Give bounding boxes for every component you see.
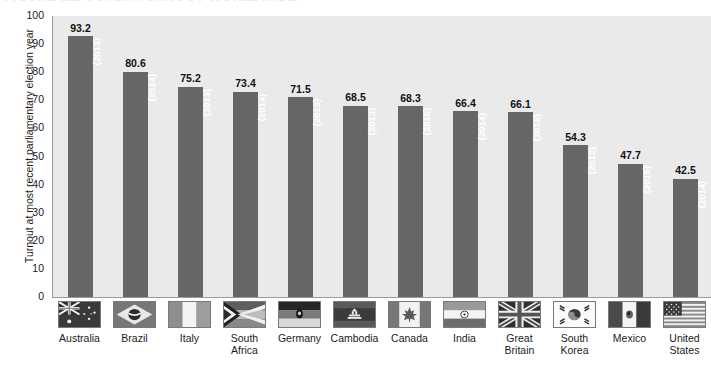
flag-mexico-icon [608, 301, 651, 328]
bar-value-label: 80.6 [108, 58, 163, 69]
flag-cambodia-icon [333, 301, 376, 328]
flag-cell [272, 300, 327, 330]
bar-year-label: (2014) [468, 121, 493, 132]
country-label-cambodia: Cambodia [327, 332, 382, 344]
bar-column[interactable]: (2015)68.3 [383, 16, 438, 298]
bar-value-label: 71.5 [273, 84, 328, 95]
y-tick-0: 0 [18, 291, 44, 302]
flag-cell [217, 300, 272, 330]
flag-south-africa-icon [223, 301, 266, 328]
y-tick-80: 80 [18, 66, 44, 77]
flag-cell [52, 300, 107, 330]
bar-year-label: (2014) [248, 102, 273, 113]
bar-year-label: (2013) [358, 116, 383, 127]
country-label-canada: Canada [382, 332, 437, 344]
bar-value-label: 66.1 [493, 99, 548, 110]
y-tick-10: 10 [18, 263, 44, 274]
flag-united-states-icon [663, 301, 706, 328]
bar-value-label: 54.3 [548, 132, 603, 143]
bar-column[interactable]: (2013)93.2 [53, 16, 108, 298]
country-label-india: India [437, 332, 492, 344]
figure-title-clipped: FIGURE 1.2 VOTER TURNOUT WORLDWIDE U.S. … [0, 0, 711, 7]
flag-cell [327, 300, 382, 330]
y-axis-tick-labels: 0102030405060708090100 [18, 0, 44, 367]
bar-year-label: (2015) [633, 174, 658, 185]
bar-column[interactable]: (2014)80.6 [108, 16, 163, 298]
bar-year-label: (2013) [303, 107, 328, 118]
country-label-united-states: UnitedStates [657, 332, 711, 356]
bar-column[interactable]: (2014)42.5 [658, 16, 711, 298]
flag-cell [162, 300, 217, 330]
flag-india-icon [443, 301, 486, 328]
bar-column[interactable]: (2014)73.4 [218, 16, 273, 298]
flag-row [52, 300, 711, 330]
flag-cell [602, 300, 657, 330]
bar-value-label: 68.5 [328, 92, 383, 103]
bar-value-label: 73.4 [218, 78, 273, 89]
country-label-row: AustraliaBrazilItalySouthAfricaGermanyCa… [52, 332, 711, 366]
y-tick-50: 50 [18, 151, 44, 162]
flag-great-britain-icon [498, 301, 541, 328]
chart-figure: FIGURE 1.2 VOTER TURNOUT WORLDWIDE U.S. … [0, 0, 711, 367]
bar-column[interactable]: (2013)68.5 [328, 16, 383, 298]
bar-column[interactable]: (2012)54.3 [548, 16, 603, 298]
flag-cell [437, 300, 492, 330]
country-label-great-britain: GreatBritain [492, 332, 547, 356]
country-label-south-korea: SouthKorea [547, 332, 602, 356]
bar-value-label: 68.3 [383, 93, 438, 104]
bar[interactable]: (2013) [68, 36, 93, 298]
bar[interactable]: (2015) [398, 106, 423, 298]
bar-value-label: 42.5 [658, 165, 711, 176]
flag-south-korea-icon [553, 301, 596, 328]
bar[interactable]: (2015) [618, 164, 643, 298]
country-label-germany: Germany [272, 332, 327, 344]
country-label-italy: Italy [162, 332, 217, 344]
bar[interactable]: (2013) [288, 97, 313, 298]
country-label-mexico: Mexico [602, 332, 657, 344]
country-label-south-africa: SouthAfrica [217, 332, 272, 356]
bar[interactable]: (2013) [178, 87, 203, 298]
bar-year-label: (2014) [138, 82, 163, 93]
bar-column[interactable]: (2013)71.5 [273, 16, 328, 298]
flag-canada-icon [388, 301, 431, 328]
bar-year-label: (2013) [83, 46, 108, 57]
flag-australia-icon [58, 301, 101, 328]
bar-year-label: (2015) [413, 116, 438, 127]
bar[interactable]: (2014) [453, 111, 478, 298]
bar-year-label: (2014) [688, 189, 711, 200]
flag-cell [492, 300, 547, 330]
bar-year-label: (2013) [193, 97, 218, 108]
bar-year-label: (2015) [523, 122, 548, 133]
y-tick-70: 70 [18, 94, 44, 105]
bar-value-label: 47.7 [603, 150, 658, 161]
y-tick-30: 30 [18, 207, 44, 218]
y-tick-20: 20 [18, 235, 44, 246]
x-axis-line [52, 297, 711, 298]
bar-column[interactable]: (2014)66.4 [438, 16, 493, 298]
bar-column[interactable]: (2015)66.1 [493, 16, 548, 298]
y-tick-60: 60 [18, 122, 44, 133]
flag-cell [547, 300, 602, 330]
y-tick-90: 90 [18, 38, 44, 49]
plot-area: (2013)93.2(2014)80.6(2013)75.2(2014)73.4… [52, 16, 711, 298]
bar-value-label: 93.2 [53, 23, 108, 34]
bar[interactable]: (2014) [123, 72, 148, 298]
bar-year-label: (2012) [578, 155, 603, 166]
flag-cell [657, 300, 711, 330]
bar[interactable]: (2013) [343, 106, 368, 298]
bar-column[interactable]: (2015)47.7 [603, 16, 658, 298]
bar[interactable]: (2014) [673, 179, 698, 298]
flag-brazil-icon [113, 301, 156, 328]
flag-germany-icon [278, 301, 321, 328]
country-label-australia: Australia [52, 332, 107, 344]
flag-cell [382, 300, 437, 330]
country-label-brazil: Brazil [107, 332, 162, 344]
bar-value-label: 66.4 [438, 98, 493, 109]
figure-subtitle: U.S. VOTER TURNOUT [577, 0, 705, 2]
bar-column[interactable]: (2013)75.2 [163, 16, 218, 298]
figure-title: FIGURE 1.2 VOTER TURNOUT WORLDWIDE [4, 0, 297, 4]
bar[interactable]: (2012) [563, 145, 588, 298]
bar-value-label: 75.2 [163, 73, 218, 84]
bar[interactable]: (2014) [233, 92, 258, 298]
bar[interactable]: (2015) [508, 112, 533, 298]
